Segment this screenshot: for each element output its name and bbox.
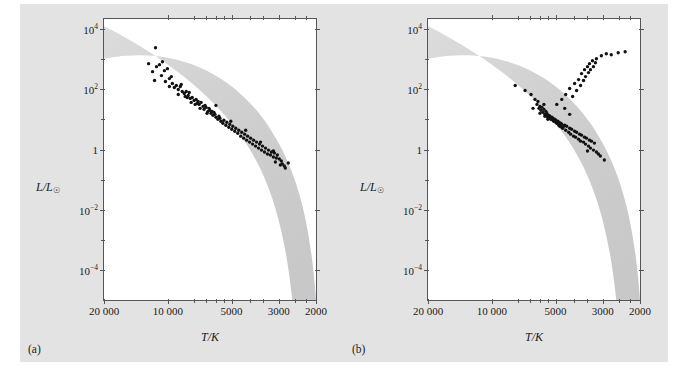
panel-b-x-axis-title: T/K [525, 330, 543, 345]
panel-a-xtick-minor [306, 299, 307, 303]
panel-a-xtick-top-minor [250, 16, 251, 20]
panel-b-ylabel-1em2: 10−2 [403, 203, 422, 217]
panel-b-xtick-minor [518, 299, 519, 303]
panel-a-plot-frame: 104 102 1 10−2 10−4 [103, 18, 317, 301]
panel-a-ytick-1em2 [100, 210, 105, 211]
panel-b-xlabel-10000: 10 000 [477, 305, 507, 317]
panel-a-ylabel-1e4: 104 [83, 22, 98, 36]
panel-a-ytick-right [315, 150, 320, 151]
panel-b-xtick-minor [587, 299, 588, 303]
panel-a-xtick-5000 [232, 299, 233, 304]
panel-a-ytick-right [315, 89, 320, 90]
panel-a-xtick-top [279, 15, 280, 20]
panel-a-ytick-1e2 [100, 89, 105, 90]
panel-b-xtick-minor [530, 299, 531, 303]
panel-a-ylabel-1e2: 102 [83, 82, 98, 96]
panel-a-ylabel-1: 1 [93, 144, 99, 156]
panel-b: L/L☉ [344, 4, 668, 362]
panel-a-xtick-top-minor [206, 16, 207, 20]
panel-b-xtick-minor [630, 299, 631, 303]
panel-b-ytick-1em2 [424, 210, 429, 211]
panel-a-ytick-1e4 [100, 29, 105, 30]
panel-a-ylabel-1em2: 10−2 [79, 203, 98, 217]
panel-a-xlabel-2000: 2000 [305, 305, 327, 317]
panel-a-ytick-1em4 [100, 270, 105, 271]
panel-b-ytick-right [639, 89, 644, 90]
panel-a-xtick-minor [194, 299, 195, 303]
panel-b-main-sequence-points [513, 84, 602, 158]
panel-b-xtick-top-minor [574, 16, 575, 20]
panel-a-ylabel-1em4: 10−4 [79, 264, 98, 278]
panel-b-xtick-top-minor [587, 16, 588, 20]
panel-b-xlabel-2000: 2000 [629, 305, 651, 317]
panel-b-ylabel-1: 1 [417, 144, 423, 156]
panel-b-xtick-top [603, 15, 604, 20]
panel-a-xtick-10000 [168, 299, 169, 304]
panel-b-xtick-top-minor [540, 16, 541, 20]
panel-b-scatter-layer [428, 19, 640, 300]
panel-a-ytick-minor [101, 59, 105, 60]
panel-b-ytick-right [639, 29, 644, 30]
panel-a-xtick-minor [224, 299, 225, 303]
panel-a-ytick-minor [101, 240, 105, 241]
panel-a-ytick-right [315, 29, 320, 30]
panel-a-xtick-minor [206, 299, 207, 303]
panel-b-ytick-minor [425, 119, 429, 120]
panel-a-ytick-minor [101, 119, 105, 120]
panel-b-plot-frame: 104 102 1 10−2 10−4 [427, 18, 641, 301]
panel-a-xtick-2000 [316, 299, 317, 304]
panel-a-y-axis-title: L/L☉ [36, 180, 60, 195]
panel-a-xtick-3000 [279, 299, 280, 304]
panel-b-ytick-minor [425, 240, 429, 241]
panel-b-ytick-1 [424, 150, 429, 151]
panel-b-xtick-20000 [428, 299, 429, 304]
panel-b-xtick-top-minor [630, 16, 631, 20]
panel-b-xtick-top [556, 15, 557, 20]
panel-a: L/L☉ [20, 4, 344, 362]
panel-a-xtick-minor [263, 299, 264, 303]
panel-b-xtick-top [492, 15, 493, 20]
panel-b-ytick-right [639, 150, 644, 151]
panel-b-ylabel-1e2: 102 [407, 82, 422, 96]
panel-a-label: (a) [28, 343, 41, 355]
panel-a-xlabel-20000: 20 000 [89, 305, 119, 317]
panel-b-ytick-minor [425, 59, 429, 60]
panel-a-ytick-right [315, 210, 320, 211]
panel-a-star-points [147, 46, 290, 170]
panel-b-xtick-minor [540, 299, 541, 303]
panel-b-xtick-10000 [492, 299, 493, 304]
panel-a-xtick-top-minor [263, 16, 264, 20]
panel-b-xtick-top-minor [518, 16, 519, 20]
panel-a-xtick-top-minor [194, 16, 195, 20]
panel-a-ytick-1 [100, 150, 105, 151]
panel-b-xtick-top-minor [530, 16, 531, 20]
hr-diagram-figure: L/L☉ [20, 4, 668, 362]
panel-b-xtick-minor [548, 299, 549, 303]
panel-a-xtick-top [168, 15, 169, 20]
panel-a-xtick-20000 [104, 299, 105, 304]
panel-a-xtick-top [232, 15, 233, 20]
panel-b-xtick-2000 [640, 299, 641, 304]
panel-b-xtick-top-minor [548, 16, 549, 20]
panel-a-xtick-minor [250, 299, 251, 303]
panel-a-xlabel-3000: 3000 [268, 305, 290, 317]
panel-b-ytick-1e4 [424, 29, 429, 30]
panel-b-xlabel-3000: 3000 [592, 305, 614, 317]
panel-a-xtick-top-minor [224, 16, 225, 20]
panel-b-ytick-1em4 [424, 270, 429, 271]
panel-a-xtick-top-minor [295, 16, 296, 20]
panel-b-ylabel-1e4: 104 [407, 22, 422, 36]
panel-b-xtick-top-minor [619, 16, 620, 20]
panel-b-y-axis-title: L/L☉ [360, 180, 384, 195]
panel-b-ytick-right [639, 210, 644, 211]
panel-a-x-axis-title: T/K [201, 330, 219, 345]
panel-b-xtick-5000 [556, 299, 557, 304]
panel-a-xtick-top-minor [216, 16, 217, 20]
panel-b-label: (b) [352, 343, 365, 355]
panel-a-ytick-right [315, 270, 320, 271]
panel-b-xlabel-20000: 20 000 [413, 305, 443, 317]
panel-a-scatter-layer [104, 19, 316, 300]
panel-b-xtick-minor [619, 299, 620, 303]
panel-b-ylabel-1em4: 10−4 [403, 264, 422, 278]
panel-a-xtick-minor [295, 299, 296, 303]
